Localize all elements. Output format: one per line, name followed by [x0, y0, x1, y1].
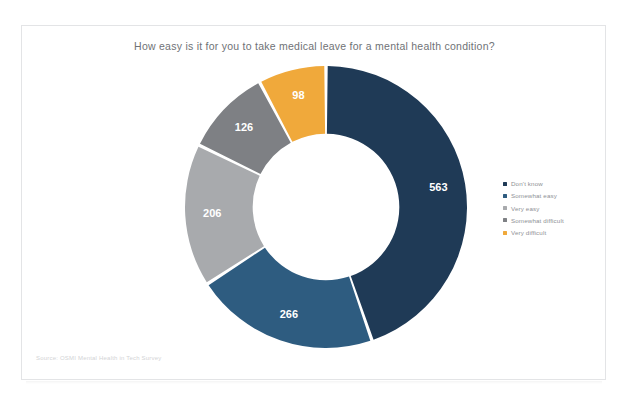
legend-swatch-icon [503, 218, 507, 222]
source-note: Source: OSMI Mental Health in Tech Surve… [36, 355, 161, 361]
legend-item[interactable]: Don't know [503, 178, 603, 190]
donut-slice-value: 206 [203, 207, 221, 219]
screen: How easy is it for you to take medical l… [0, 0, 627, 407]
legend-item-label: Very difficult [511, 229, 546, 236]
legend-item[interactable]: Somewhat difficult [503, 215, 603, 227]
legend-swatch-icon [503, 206, 507, 210]
donut-chart-svg: 56326620612698 [181, 62, 471, 352]
donut-slice-value: 266 [280, 308, 298, 320]
legend-item-label: Somewhat easy [511, 192, 557, 199]
legend-item-label: Don't know [511, 180, 543, 187]
legend-swatch-icon [503, 194, 507, 198]
donut-slice-value: 563 [429, 181, 447, 193]
page-title: How easy is it for you to take medical l… [22, 40, 607, 52]
donut-slice-value: 98 [292, 89, 304, 101]
donut-slice-group [185, 66, 467, 348]
card-shadow [26, 381, 602, 384]
legend-item[interactable]: Somewhat easy [503, 190, 603, 202]
legend-swatch-icon [503, 231, 507, 235]
legend-item[interactable]: Very difficult [503, 227, 603, 239]
chart-legend: Don't knowSomewhat easyVery easySomewhat… [503, 178, 603, 239]
legend-item-label: Very easy [511, 205, 540, 212]
chart-card: How easy is it for you to take medical l… [21, 25, 606, 380]
donut-chart: 56326620612698 [181, 62, 471, 352]
donut-slice-value: 126 [235, 121, 253, 133]
legend-item-label: Somewhat difficult [511, 217, 564, 224]
legend-swatch-icon [503, 182, 507, 186]
legend-item[interactable]: Very easy [503, 202, 603, 214]
